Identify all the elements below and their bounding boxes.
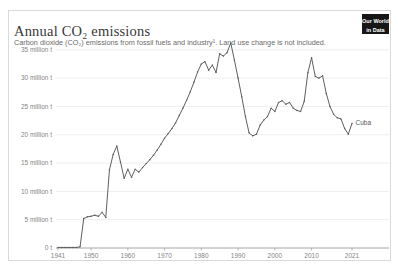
data-point [256, 133, 258, 135]
y-tick-label: 10 million t [21, 188, 52, 195]
data-point [79, 246, 81, 248]
data-point [160, 144, 162, 146]
y-tick-label: 0 t [45, 244, 52, 251]
data-point [274, 111, 276, 113]
data-point [315, 76, 317, 78]
x-tick-label: 2010 [304, 252, 319, 259]
data-point [190, 91, 192, 93]
data-point [197, 71, 199, 73]
data-point [134, 169, 136, 171]
data-point [215, 72, 217, 74]
data-point [259, 124, 261, 126]
data-point [179, 115, 181, 117]
data-point [171, 128, 173, 130]
data-point [292, 107, 294, 109]
data-point [311, 57, 313, 59]
y-tick-label: 15 million t [21, 159, 52, 166]
data-point [164, 137, 166, 139]
data-point [76, 247, 78, 249]
data-point [223, 55, 225, 57]
data-point [296, 110, 298, 112]
data-point [186, 99, 188, 101]
data-point [348, 133, 350, 135]
data-point [351, 123, 353, 125]
data-point [322, 75, 324, 77]
data-point [208, 69, 210, 71]
data-point [278, 102, 280, 104]
y-tick-label: 5 million t [25, 216, 53, 223]
x-tick-label: 1950 [84, 252, 99, 259]
data-point [145, 163, 147, 165]
data-point [112, 154, 114, 156]
data-point [263, 119, 265, 121]
x-tick-label: 1941 [51, 252, 66, 259]
data-point [57, 247, 59, 249]
x-axis-labels: 194119501960197019801990200020102021 [51, 248, 360, 259]
gridlines-group [56, 50, 389, 248]
data-point [303, 101, 305, 103]
data-point [193, 81, 195, 83]
data-point [138, 171, 140, 173]
data-point [333, 114, 335, 116]
data-point [289, 102, 291, 104]
x-tick-label: 2021 [345, 252, 360, 259]
x-tick-label: 1990 [231, 252, 246, 259]
data-point [68, 247, 70, 249]
data-point [337, 117, 339, 119]
data-point [131, 176, 133, 178]
x-tick-label: 1980 [194, 252, 209, 259]
data-point [219, 53, 221, 55]
data-point [248, 132, 250, 134]
data-point [300, 111, 302, 113]
data-point [285, 103, 287, 105]
emissions-line-chart[interactable]: 0 t5 million t10 million t15 million t20… [0, 0, 398, 276]
data-point [120, 161, 122, 163]
data-point [116, 145, 118, 147]
emissions-line[interactable] [58, 43, 352, 247]
data-point [230, 42, 232, 44]
data-point [175, 122, 177, 124]
data-point [149, 159, 151, 161]
data-point [201, 63, 203, 65]
data-point [90, 216, 92, 218]
data-point [237, 77, 239, 79]
data-point [252, 135, 254, 137]
data-point [281, 100, 283, 102]
data-point [270, 107, 272, 109]
data-point [153, 154, 155, 156]
data-point [226, 52, 228, 54]
data-point [72, 247, 74, 249]
data-point [61, 247, 63, 249]
data-point [109, 169, 111, 171]
y-tick-label: 30 million t [21, 74, 52, 81]
data-point [83, 218, 85, 220]
y-tick-label: 35 million t [21, 46, 52, 53]
data-point-markers [57, 42, 353, 248]
data-point [344, 128, 346, 130]
y-tick-label: 20 million t [21, 131, 52, 138]
data-point [234, 59, 236, 61]
data-point [307, 72, 309, 74]
data-point [105, 217, 107, 219]
data-point [241, 96, 243, 98]
data-point [101, 212, 103, 214]
data-point [212, 64, 214, 66]
data-point [87, 216, 89, 218]
data-point [94, 214, 96, 216]
data-point [329, 106, 331, 108]
data-point [245, 116, 247, 118]
data-point [142, 167, 144, 169]
data-point [340, 118, 342, 120]
data-point [326, 93, 328, 95]
data-point [204, 61, 206, 63]
x-tick-label: 1960 [121, 252, 136, 259]
entity-label-cuba[interactable]: Cuba [356, 119, 372, 126]
data-point [168, 133, 170, 135]
data-point [127, 169, 129, 171]
data-point [98, 216, 100, 218]
data-point [318, 77, 320, 79]
data-point [267, 116, 269, 118]
y-axis-labels: 0 t5 million t10 million t15 million t20… [21, 46, 52, 251]
y-tick-label: 25 million t [21, 103, 52, 110]
data-point [156, 149, 158, 151]
